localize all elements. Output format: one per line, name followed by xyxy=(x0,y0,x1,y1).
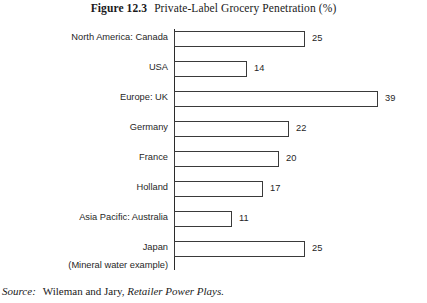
category-label: USA xyxy=(149,62,168,72)
bar-value-label: 25 xyxy=(312,33,322,43)
chart-row: Japan25(Mineral water example) xyxy=(0,239,427,269)
chart-row: France20 xyxy=(0,149,427,179)
source-work-title: Retailer Power Plays. xyxy=(127,285,224,297)
bar xyxy=(174,241,305,257)
chart-row: Germany22 xyxy=(0,119,427,149)
category-label: France xyxy=(139,152,168,162)
category-label: Asia Pacific: Australia xyxy=(79,212,168,222)
category-label: Japan xyxy=(143,242,168,252)
bar xyxy=(174,211,232,227)
japan-sub-note: (Mineral water example) xyxy=(68,260,168,270)
category-label: Holland xyxy=(136,182,168,192)
bar xyxy=(174,31,305,47)
chart-row: Asia Pacific: Australia11 xyxy=(0,209,427,239)
category-label: Germany xyxy=(130,122,168,132)
chart-row: USA14 xyxy=(0,59,427,89)
bar-value-label: 17 xyxy=(270,183,280,193)
bar-value-label: 11 xyxy=(239,213,249,223)
bar-chart: North America: Canada25USA14Europe: UK39… xyxy=(0,24,427,276)
source-label: Source: xyxy=(2,285,36,297)
bar xyxy=(174,121,289,137)
chart-row: Europe: UK39 xyxy=(0,89,427,119)
bar-value-label: 14 xyxy=(254,63,264,73)
source-line: Source:Wileman and Jary, Retailer Power … xyxy=(2,285,224,297)
figure-number: Figure 12.3 xyxy=(91,2,147,14)
bar xyxy=(174,151,279,167)
category-label: North America: Canada xyxy=(71,32,168,42)
bar xyxy=(174,61,247,77)
chart-row: Holland17 xyxy=(0,179,427,209)
bar-value-label: 39 xyxy=(385,93,395,103)
category-label: Europe: UK xyxy=(120,92,168,102)
chart-row: North America: Canada25 xyxy=(0,29,427,59)
source-authors: Wileman and Jary, xyxy=(43,285,125,297)
bar xyxy=(174,91,378,107)
figure-title-text: Private-Label Grocery Penetration (%) xyxy=(154,2,336,14)
bar-value-label: 25 xyxy=(312,243,322,253)
bar-value-label: 22 xyxy=(296,123,306,133)
bar-value-label: 20 xyxy=(286,153,296,163)
bar xyxy=(174,181,263,197)
figure-title: Figure 12.3Private-Label Grocery Penetra… xyxy=(0,2,427,14)
